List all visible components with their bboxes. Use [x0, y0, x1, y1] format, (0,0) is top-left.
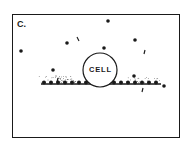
- diagram-canvas: [13, 15, 181, 139]
- cell-label: CELL: [89, 65, 112, 74]
- figure-frame: C. CELL: [12, 14, 180, 138]
